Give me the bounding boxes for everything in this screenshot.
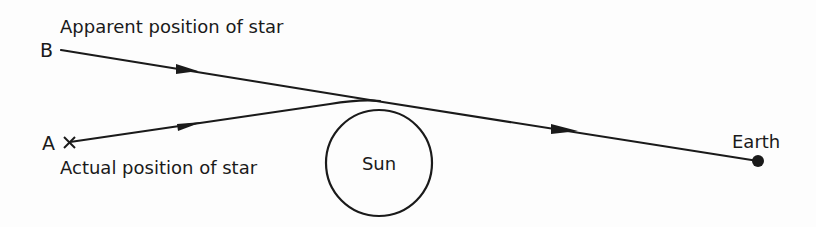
apparent-ray-line [61,50,758,161]
diagram-svg: B A Apparent position of star Actual pos… [0,0,816,227]
earth-dot-icon [752,155,764,167]
arrowhead-lower-icon [177,122,202,131]
label-earth: Earth [732,131,780,152]
label-actual-position: Actual position of star [60,157,258,178]
label-point-a: A [42,132,55,154]
label-sun: Sun [362,153,396,174]
label-point-b: B [40,39,53,61]
light-deflection-diagram: B A Apparent position of star Actual pos… [0,0,816,227]
label-apparent-position: Apparent position of star [60,16,284,37]
